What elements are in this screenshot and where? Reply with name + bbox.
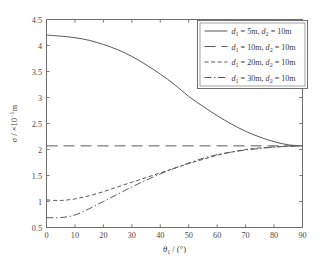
y-axis-title: σ / ×10−1m	[9, 104, 19, 142]
x-tick-label: 60	[213, 231, 221, 240]
x-tick-label: 80	[270, 231, 278, 240]
x-tick-label: 50	[185, 231, 193, 240]
y-tick-label: 0.5	[32, 224, 42, 233]
y-tick-label: 1.5	[32, 172, 42, 181]
x-tick-label: 20	[99, 231, 107, 240]
x-tick-label: 90	[298, 231, 306, 240]
x-tick-label: 10	[71, 231, 79, 240]
legend-label-3: d1 = 20m, d2 = 10m	[232, 58, 297, 68]
x-axis-title: θ1 / (°)	[163, 244, 186, 255]
x-tick-label: 40	[156, 231, 164, 240]
y-tick-label: 3	[38, 94, 42, 103]
legend-label-4: d1 = 30m, d2 = 10m	[232, 74, 297, 84]
legend-label-1: d1 = 5m, d2 = 10m	[232, 27, 293, 37]
y-tick-label: 2.5	[32, 120, 42, 129]
x-tick-label: 0	[44, 231, 48, 240]
x-tick-label: 30	[128, 231, 136, 240]
y-tick-label: 3.5	[32, 68, 42, 77]
line-chart: 01020304050607080900.511.522.533.544.5 d…	[0, 0, 329, 273]
y-tick-label: 4	[38, 42, 42, 51]
chart-legend[interactable]: d1 = 5m, d2 = 10md1 = 10m, d2 = 10md1 = …	[198, 21, 308, 89]
y-tick-label: 1	[38, 198, 42, 207]
y-tick-label: 2	[38, 146, 42, 155]
legend-label-2: d1 = 10m, d2 = 10m	[232, 43, 297, 53]
x-tick-label: 70	[242, 231, 250, 240]
y-tick-label: 4.5	[32, 16, 42, 25]
figure-container: 01020304050607080900.511.522.533.544.5 d…	[0, 0, 329, 273]
